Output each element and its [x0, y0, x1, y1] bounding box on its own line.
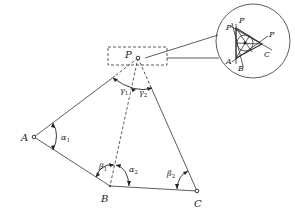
mag-label-c: C — [264, 50, 270, 59]
edge-P-A — [34, 76, 115, 137]
arrowhead-beta2-bottom — [175, 184, 179, 189]
mag-label-p2: P — [238, 16, 245, 25]
arrowhead-alpha2-bottom — [127, 181, 131, 186]
point-C — [195, 189, 199, 193]
mag-label-b: B — [237, 64, 244, 73]
label-alpha1: α1 — [61, 133, 70, 143]
point-A — [32, 135, 36, 139]
resection-diagram: P A B C γ1 γ2 α1 β1 α2 β2 P P P A B C — [0, 0, 295, 223]
label-P: P — [124, 49, 132, 60]
edge-P-C-dashed — [138, 58, 150, 85]
label-gamma1: γ1 — [120, 86, 128, 96]
label-beta1: β1 — [98, 162, 107, 172]
label-A: A — [20, 132, 28, 143]
label-B: B — [100, 193, 108, 204]
mag-label-p3: P — [268, 30, 275, 39]
mag-label-a: A — [225, 57, 232, 66]
point-B — [109, 185, 111, 187]
angle-arc-beta2 — [177, 171, 188, 189]
label-alpha2: α2 — [129, 165, 138, 175]
callout-line-upper — [145, 35, 218, 58]
edge-B-C — [110, 186, 197, 191]
arrowhead-beta1-right — [109, 163, 114, 167]
center-point — [244, 42, 247, 45]
arrowhead-beta2-top — [183, 171, 188, 175]
mag-label-p1: P — [225, 23, 232, 32]
label-C: C — [194, 198, 202, 209]
angle-arc-alpha2 — [116, 165, 129, 186]
arrowhead-alpha2-top — [116, 164, 121, 168]
error-triangle-detail — [230, 23, 272, 66]
point-P — [136, 56, 140, 60]
label-beta2: β2 — [166, 169, 175, 179]
